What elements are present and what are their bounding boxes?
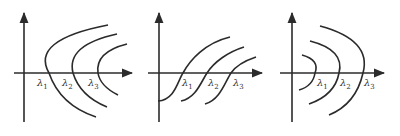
label-lambda-1: λ <box>36 77 43 88</box>
curve-lambda-3 <box>98 44 127 95</box>
svg-text:λ2: λ2 <box>207 77 219 91</box>
label-lambda-2: λ <box>207 77 214 88</box>
curve-lambda-2 <box>181 47 244 101</box>
curve-lambda-3 <box>320 26 364 115</box>
label-lambda-2: λ <box>339 77 346 88</box>
panel-1 <box>14 13 132 122</box>
svg-text:λ1: λ1 <box>181 77 193 91</box>
curve-lambda-2 <box>72 34 117 107</box>
svg-text:λ1: λ1 <box>36 77 48 91</box>
svg-text:λ3: λ3 <box>363 77 375 91</box>
panel-3 <box>280 13 384 122</box>
panel-2-labels: λ1 λ2 λ3 <box>181 77 244 91</box>
label-lambda-2: λ <box>61 77 68 88</box>
panel-2 <box>148 13 262 122</box>
figure: λ1 λ2 λ3 λ1 λ2 λ3 λ1 λ2 λ3 <box>0 0 400 136</box>
svg-text:λ1: λ1 <box>316 77 328 91</box>
label-lambda-1: λ <box>181 77 188 88</box>
svg-text:λ2: λ2 <box>339 77 351 91</box>
svg-text:λ3: λ3 <box>232 77 244 91</box>
svg-text:λ2: λ2 <box>61 77 73 91</box>
svg-text:λ3: λ3 <box>87 77 99 91</box>
label-lambda-3: λ <box>363 77 370 88</box>
label-lambda-1: λ <box>316 77 323 88</box>
panel-1-labels: λ1 λ2 λ3 <box>36 77 99 91</box>
panel-3-labels: λ1 λ2 λ3 <box>316 77 375 91</box>
curve-lambda-1 <box>158 37 230 101</box>
label-lambda-3: λ <box>232 77 239 88</box>
label-lambda-3: λ <box>87 77 94 88</box>
